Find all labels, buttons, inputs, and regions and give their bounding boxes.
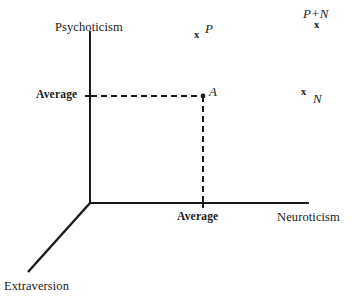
point-pn-x-marker: x [314, 20, 319, 31]
neuroticism-axis-label: Neuroticism [277, 211, 340, 224]
psychoticism-axis-label: Psychoticism [55, 21, 123, 34]
point-p-label: P [205, 22, 213, 35]
point-p-x-marker: x [194, 30, 199, 41]
point-n-x-marker: x [301, 87, 306, 98]
personality-axes-figure: Psychoticism Neuroticism Extraversion Av… [0, 0, 363, 307]
neuroticism-average-tick-label: Average [177, 211, 218, 223]
psychoticism-average-tick-label: Average [36, 89, 77, 101]
point-n-label: N [313, 92, 322, 105]
extraversion-axis-label: Extraversion [4, 280, 69, 293]
point-a-dot [201, 94, 206, 99]
point-a-label: A [209, 85, 217, 98]
axes-drawing [0, 0, 363, 307]
extraversion-axis-line [28, 203, 90, 272]
